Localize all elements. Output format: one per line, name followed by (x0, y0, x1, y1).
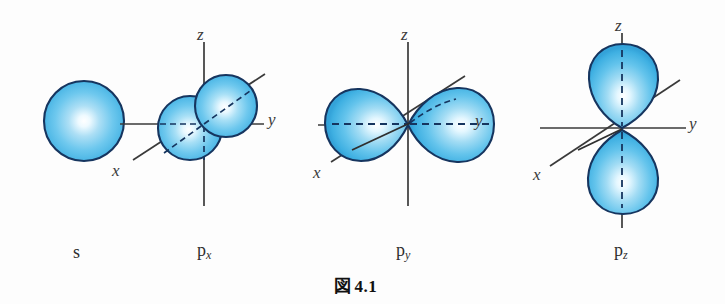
px-lobe-back-sphere (195, 75, 257, 137)
py-axis-label-y: y (475, 112, 483, 129)
py-axis-label-x: x (313, 164, 321, 181)
orbital-label-py-base: p (396, 240, 405, 260)
px-axis-label-y: y (268, 111, 276, 128)
orbital-label-s: s (73, 243, 80, 261)
pz-lobe-lower (588, 130, 658, 214)
figure-caption-number: 4.1 (355, 277, 378, 296)
px-axis-label-x: x (112, 162, 120, 179)
orbital-pz-group (540, 33, 686, 228)
orbital-label-py: py (396, 241, 410, 261)
orbital-label-px-base: p (197, 240, 206, 260)
orbital-s-group (44, 81, 124, 161)
orbital-label-px: px (197, 241, 211, 261)
px-axis-label-z: z (197, 26, 204, 43)
pz-axis-label-z: z (615, 17, 622, 34)
pz-lobe-upper (589, 44, 658, 128)
orbital-label-px-subscript: x (206, 248, 211, 262)
orbital-label-py-subscript: y (405, 248, 410, 262)
orbital-label-pz-subscript: z (623, 248, 628, 262)
orbital-label-pz: pz (614, 241, 628, 261)
figure-caption-symbol: 図 (334, 277, 352, 296)
orbital-px-group (120, 42, 265, 206)
py-axis-label-z: z (401, 26, 408, 43)
pz-axis-label-x: x (533, 166, 541, 183)
py-lobe-left (325, 89, 408, 161)
orbital-py-group (318, 42, 494, 206)
orbital-figure: z y x z y x z y x s px py pz 図4.1 (0, 0, 725, 304)
figure-caption: 図4.1 (334, 278, 377, 295)
s-orbital-sphere (44, 81, 124, 161)
orbital-label-pz-base: p (614, 240, 623, 260)
pz-axis-label-y: y (689, 115, 697, 132)
